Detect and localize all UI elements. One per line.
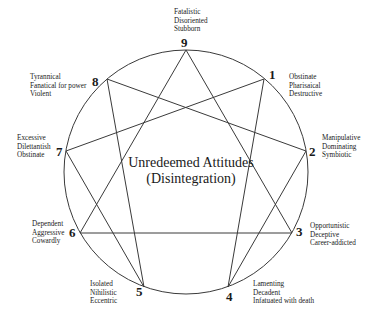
trait: Manipulative (322, 134, 360, 143)
point-number-2: 2 (309, 145, 316, 158)
trait: Aggressive (32, 229, 64, 238)
diagram-title: Unredeemed Attitudes (Disintegration) (116, 155, 266, 187)
point-number-7: 7 (56, 145, 63, 158)
trait: Decadent (253, 289, 314, 298)
point-number-5: 5 (136, 285, 143, 298)
title-line-1: Unredeemed Attitudes (116, 155, 266, 171)
trait: Stubborn (174, 25, 208, 34)
traits-4: Lamenting Decadent Infatuated with death (253, 280, 314, 306)
traits-8: Tyrannical Fanatical for power Violent (30, 73, 86, 99)
trait: Nihilistic (90, 289, 117, 298)
trait: Fatalistic (174, 8, 208, 17)
trait: Tyrannical (30, 73, 86, 82)
traits-6: Dependent Aggressive Cowardly (32, 220, 64, 246)
traits-9: Fatalistic Disoriented Stubborn (174, 8, 208, 34)
trait: Dominating (322, 143, 360, 152)
trait: Deceptive (310, 231, 356, 240)
trait: Isolated (90, 280, 117, 289)
trait: Symbiotic (322, 151, 360, 160)
trait: Dilettantish (17, 143, 51, 152)
trait: Disoriented (174, 17, 208, 26)
trait: Cowardly (32, 237, 64, 246)
traits-3: Opportunistic Deceptive Career-addicted (310, 222, 356, 248)
trait: Obstinate (289, 73, 322, 82)
point-number-1: 1 (269, 68, 276, 81)
trait: Eccentric (90, 297, 117, 306)
trait: Opportunistic (310, 222, 356, 231)
traits-5: Isolated Nihilistic Eccentric (90, 280, 117, 306)
point-number-4: 4 (226, 290, 233, 303)
trait: Obstinate (17, 151, 51, 160)
trait: Infatuated with death (253, 297, 314, 306)
point-number-3: 3 (296, 225, 303, 238)
traits-7: Excessive Dilettantish Obstinate (17, 134, 51, 160)
trait: Fanatical for power (30, 82, 86, 91)
trait: Violent (30, 90, 86, 99)
trait: Career-addicted (310, 239, 356, 248)
trait: Pharisaical (289, 82, 322, 91)
trait: Destructive (289, 90, 322, 99)
title-line-2: (Disintegration) (116, 171, 266, 187)
traits-1: Obstinate Pharisaical Destructive (289, 73, 322, 99)
point-number-9: 9 (181, 36, 188, 49)
trait: Lamenting (253, 280, 314, 289)
trait: Excessive (17, 134, 51, 143)
point-number-6: 6 (69, 226, 76, 239)
inner-triangle (80, 50, 292, 233)
point-number-8: 8 (92, 75, 99, 88)
traits-2: Manipulative Dominating Symbiotic (322, 134, 360, 160)
trait: Dependent (32, 220, 64, 229)
